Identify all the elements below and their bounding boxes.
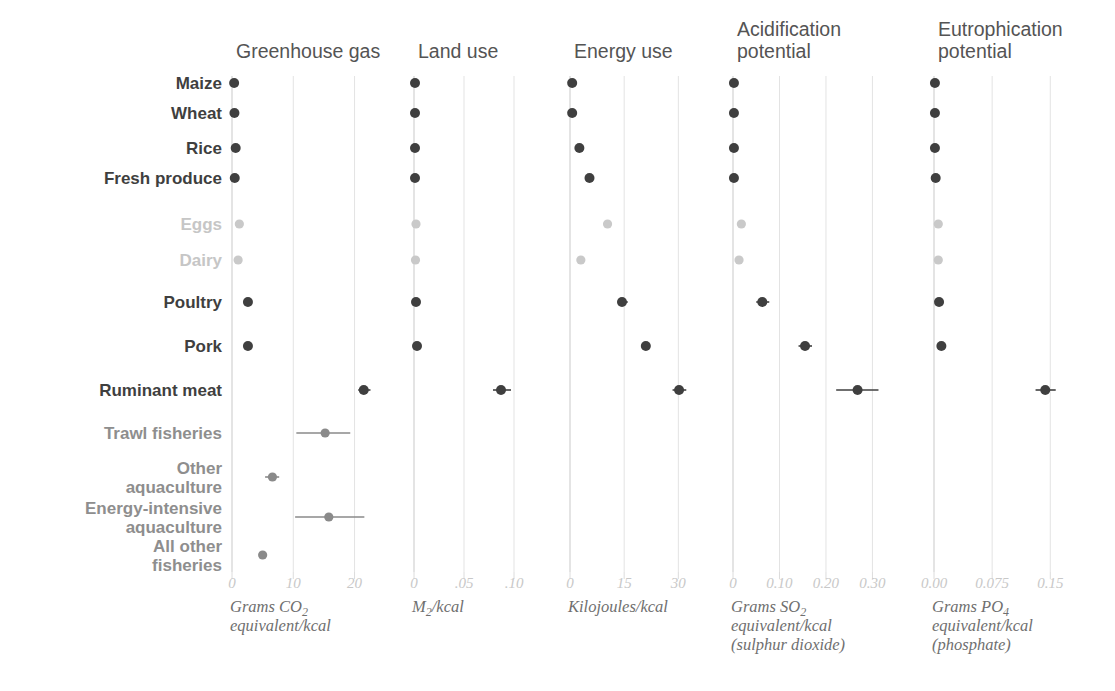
data-point — [496, 385, 506, 395]
row-label-pork: Pork — [184, 337, 222, 356]
row-label-text: Eggs — [180, 215, 222, 234]
row-label-maize: Maize — [176, 74, 222, 93]
data-point — [641, 341, 651, 351]
tick-label: 15 — [617, 575, 633, 591]
row-label-text: Trawl fisheries — [104, 424, 222, 443]
tick-label: 0.00 — [921, 575, 948, 591]
data-point — [258, 550, 267, 559]
chart-svg: MaizeWheatRiceFresh produceEggsDairyPoul… — [0, 0, 1115, 691]
data-point — [567, 78, 577, 88]
data-point — [411, 219, 420, 228]
data-point — [235, 219, 244, 228]
tick-label: 0.10 — [766, 575, 793, 591]
row-label-ruminant-meat: Ruminant meat — [99, 381, 222, 400]
row-label-text: Wheat — [171, 104, 222, 123]
data-point — [410, 78, 420, 88]
data-point — [321, 428, 330, 437]
row-label-all-other-fisheries: All otherfisheries — [152, 537, 222, 575]
data-point — [411, 297, 421, 307]
tick-label: 0.075 — [975, 575, 1009, 591]
row-label-text: aquaculture — [126, 478, 222, 497]
panel-title: Energy use — [574, 40, 673, 62]
data-point — [729, 143, 739, 153]
row-label-fresh-produce: Fresh produce — [104, 169, 222, 188]
data-point — [229, 108, 239, 118]
tick-label: 30 — [670, 575, 687, 591]
row-label-text: Rice — [186, 139, 222, 158]
row-label-text: Dairy — [179, 251, 222, 270]
row-label-eggs: Eggs — [180, 215, 222, 234]
data-point — [230, 173, 240, 183]
axis-caption: Kilojoules/kcal — [567, 597, 668, 616]
data-point — [359, 385, 369, 395]
data-point — [936, 341, 946, 351]
tick-label: 0.20 — [813, 575, 840, 591]
data-point — [410, 108, 420, 118]
row-label-text: Ruminant meat — [99, 381, 222, 400]
tick-label: 0 — [729, 575, 737, 591]
row-label-text: Other — [177, 459, 223, 478]
row-label-other-aquaculture: Otheraquaculture — [126, 459, 223, 497]
panel-title: Greenhouse gas — [236, 40, 380, 62]
tick-label: 0 — [228, 575, 236, 591]
row-label-wheat: Wheat — [171, 104, 222, 123]
data-point — [930, 143, 940, 153]
data-point — [576, 255, 585, 264]
data-point — [617, 297, 627, 307]
tick-label: 10 — [286, 575, 302, 591]
data-point — [1040, 385, 1050, 395]
axis-caption: M2/kcal — [411, 597, 464, 619]
panel-title: potential — [938, 40, 1012, 62]
tick-label: 0 — [566, 575, 574, 591]
tick-label: 20 — [347, 575, 363, 591]
panel-greenhouse-gas: Greenhouse gas01020Grams CO2equivalent/k… — [228, 40, 380, 635]
data-point — [268, 472, 277, 481]
tick-label: .10 — [505, 575, 524, 591]
data-point — [729, 173, 739, 183]
row-label-text: aquaculture — [126, 518, 222, 537]
data-point — [930, 108, 940, 118]
panel-acidification-potential: Acidificationpotential00.100.200.30Grams… — [729, 18, 886, 654]
tick-label: 0.30 — [859, 575, 886, 591]
data-point — [412, 341, 422, 351]
axis-caption: equivalent/kcal — [230, 616, 331, 635]
row-label-dairy: Dairy — [179, 251, 222, 270]
data-point — [853, 385, 863, 395]
data-point — [734, 255, 743, 264]
panel-land-use: Land use0.05.10M2/kcal — [410, 40, 524, 619]
data-point — [585, 173, 595, 183]
row-label-poultry: Poultry — [163, 293, 222, 312]
row-label-rice: Rice — [186, 139, 222, 158]
data-point — [729, 78, 739, 88]
data-point — [243, 341, 253, 351]
row-label-text: Maize — [176, 74, 222, 93]
tick-label: 0 — [410, 575, 418, 591]
data-point — [934, 255, 943, 264]
axis-caption: equivalent/kcal — [731, 616, 832, 635]
row-label-text: Energy-intensive — [85, 499, 222, 518]
panel-title: Eutrophication — [938, 18, 1063, 40]
tick-label: .05 — [455, 575, 474, 591]
chart-figure: MaizeWheatRiceFresh produceEggsDairyPoul… — [0, 0, 1115, 691]
data-point — [800, 341, 810, 351]
axis-caption: (sulphur dioxide) — [731, 635, 845, 654]
data-point — [930, 78, 940, 88]
data-point — [729, 108, 739, 118]
row-label-text: All other — [153, 537, 222, 556]
tick-label: 0.15 — [1037, 575, 1064, 591]
row-label-energy-intensive-aquaculture: Energy-intensiveaquaculture — [85, 499, 222, 537]
data-point — [410, 173, 420, 183]
panel-title: Acidification — [737, 18, 841, 40]
row-label-text: Fresh produce — [104, 169, 222, 188]
data-point — [234, 255, 243, 264]
data-point — [567, 108, 577, 118]
panel-title: potential — [737, 40, 811, 62]
axis-caption: equivalent/kcal — [932, 616, 1033, 635]
row-label-text: Pork — [184, 337, 222, 356]
panel-energy-use: Energy use01530Kilojoules/kcal — [566, 40, 686, 616]
panel-title: Land use — [418, 40, 498, 62]
data-point — [243, 297, 253, 307]
data-point — [324, 512, 333, 521]
data-point — [757, 297, 767, 307]
data-point — [603, 219, 612, 228]
